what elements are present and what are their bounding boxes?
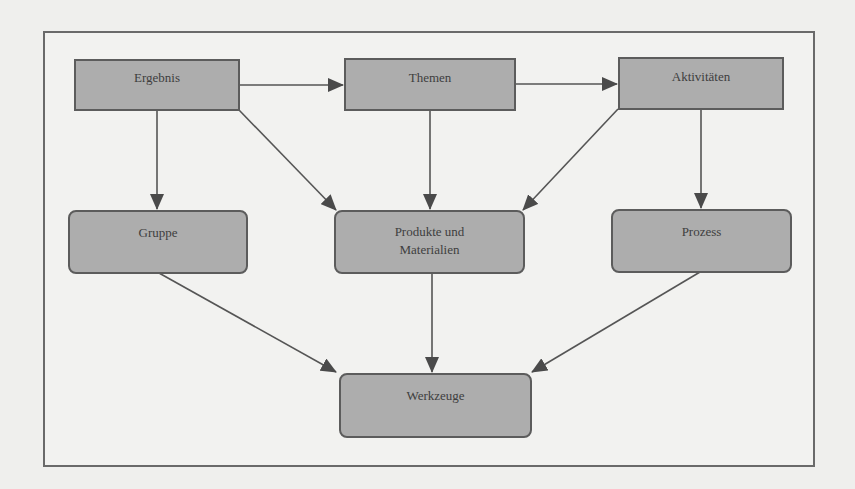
node-produkte-label-line1: Produkte und bbox=[336, 223, 523, 241]
node-gruppe: Gruppe bbox=[68, 210, 248, 274]
node-werkzeuge: Werkzeuge bbox=[339, 373, 532, 438]
node-ergebnis-label: Ergebnis bbox=[134, 70, 180, 85]
node-ergebnis: Ergebnis bbox=[74, 59, 240, 111]
node-werkzeuge-label: Werkzeuge bbox=[406, 388, 464, 403]
node-gruppe-label: Gruppe bbox=[139, 225, 178, 240]
node-aktivitaeten: Aktivitäten bbox=[618, 57, 784, 110]
node-aktivitaeten-label: Aktivitäten bbox=[672, 69, 731, 84]
node-themen-label: Themen bbox=[409, 70, 452, 85]
node-themen: Themen bbox=[344, 58, 516, 111]
node-produkte-materialien: Produkte und Materialien bbox=[334, 210, 525, 274]
node-produkte-label-line2: Materialien bbox=[336, 241, 523, 259]
node-prozess: Prozess bbox=[611, 209, 792, 273]
node-prozess-label: Prozess bbox=[682, 224, 722, 239]
